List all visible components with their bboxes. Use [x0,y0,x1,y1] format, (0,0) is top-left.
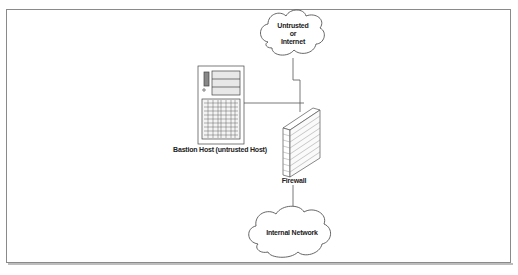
firewall-icon [283,108,320,177]
internet-label: Untrusted or Internet [270,22,316,46]
firewall-label: Firewall [272,177,316,185]
bastion-label: Bastion Host (untrusted Host) [165,146,275,154]
internet-label-line2: or [270,30,316,38]
bastion-server-icon [198,66,244,144]
internal-network-label: Internal Network [254,229,330,237]
internet-label-line3: Internet [270,38,316,46]
internet-label-line1: Untrusted [270,22,316,30]
